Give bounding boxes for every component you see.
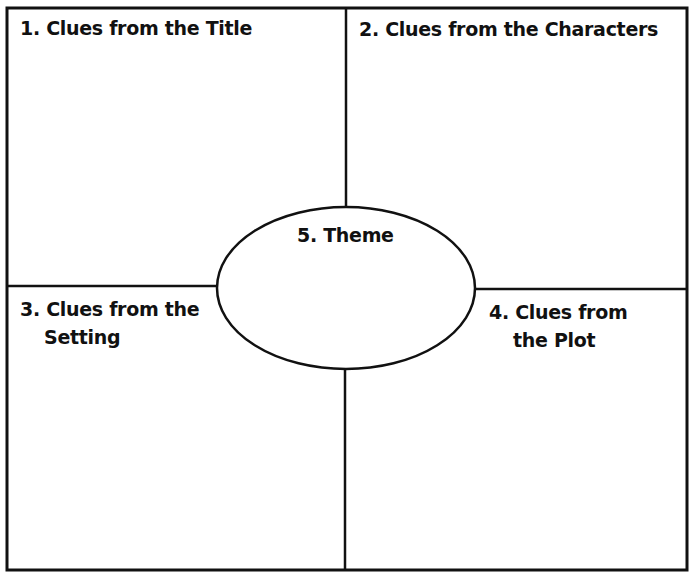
theme-writing-area[interactable] [250,252,442,352]
quadrant-3-writing-area[interactable] [10,352,342,567]
quadrant-4-title-line1: 4. Clues from [489,298,627,326]
quadrant-3-title: 3. Clues from the Setting [20,295,199,351]
quadrant-2-writing-area[interactable] [349,45,684,285]
quadrant-4-writing-area[interactable] [348,355,684,567]
quadrant-4-title: 4. Clues from the Plot [489,298,627,354]
quadrant-4-title-line2: the Plot [489,326,627,354]
quadrant-1-writing-area[interactable] [10,45,343,283]
quadrant-2-title: 2. Clues from the Characters [359,15,658,43]
quadrant-3-title-line1: 3. Clues from the [20,295,199,323]
quadrant-1-title: 1. Clues from the Title [20,14,252,42]
quadrant-3-title-line2: Setting [20,323,199,351]
